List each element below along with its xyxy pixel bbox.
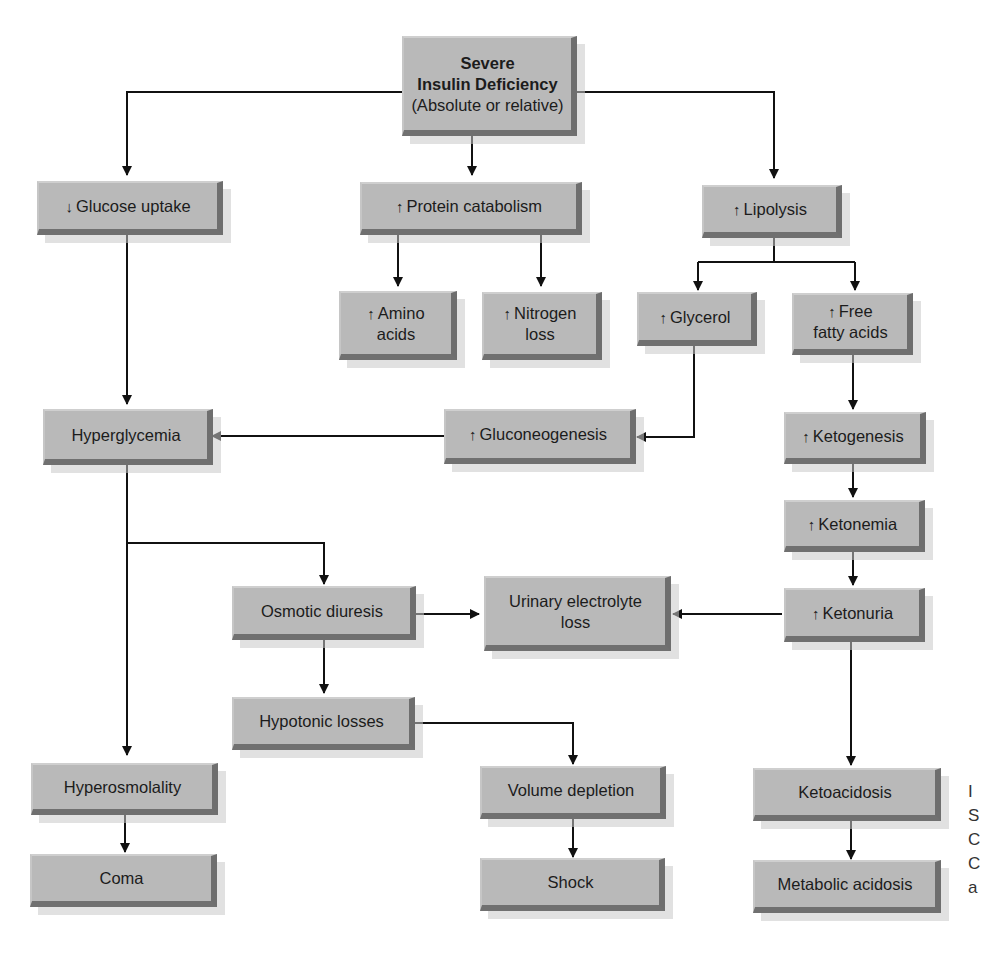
node-label: Protein catabolism (406, 197, 542, 215)
node-shock: Shock (480, 858, 665, 911)
root-title-line2: Insulin Deficiency (417, 74, 557, 95)
root-title-line1: Severe (460, 53, 514, 74)
arrow-up-icon: ↑ (808, 516, 816, 533)
caption-char: C (968, 828, 982, 852)
node-urinary-electrolyte-loss: Urinary electrolyte loss (484, 576, 671, 651)
node-ketogenesis: ↑Ketogenesis (784, 412, 926, 464)
node-hyperosmolality: Hyperosmolality (31, 763, 218, 815)
node-ketonemia: ↑Ketonemia (784, 500, 925, 552)
arrow-up-icon: ↑ (733, 201, 741, 218)
node-coma: Coma (30, 854, 217, 907)
node-label: Ketonemia (818, 515, 897, 533)
node-osmotic-diuresis: Osmotic diuresis (232, 586, 416, 640)
node-label: Ketoacidosis (798, 782, 892, 803)
node-label-line1: Amino (378, 304, 425, 322)
node-label: Lipolysis (744, 200, 807, 218)
caption-char: C (968, 852, 982, 876)
node-protein-catabolism: ↑Protein catabolism (360, 182, 582, 235)
arrow-up-icon: ↑ (367, 305, 375, 322)
arrow-down-icon: ↓ (65, 198, 73, 215)
node-label-line2: acids (377, 324, 416, 345)
node-label-line1: Urinary electrolyte (509, 591, 642, 612)
node-glucose-uptake: ↓Glucose uptake (37, 181, 223, 235)
caption-char: I (968, 780, 982, 804)
arrow-up-icon: ↑ (828, 303, 836, 320)
arrow-up-icon: ↑ (659, 309, 667, 326)
arrow-up-icon: ↑ (504, 305, 512, 322)
node-hyperglycemia: Hyperglycemia (43, 409, 213, 465)
node-gluconeogenesis: ↑Gluconeogenesis (444, 409, 636, 464)
node-free-fatty-acids: ↑Free fatty acids (792, 293, 913, 355)
node-label: Metabolic acidosis (778, 874, 913, 895)
node-label: Gluconeogenesis (479, 425, 607, 443)
node-label: Hyperosmolality (64, 777, 181, 798)
node-label: Hypotonic losses (259, 711, 384, 732)
node-lipolysis: ↑Lipolysis (702, 185, 842, 238)
flowchart-canvas: Severe Insulin Deficiency (Absolute or r… (0, 0, 982, 956)
caption-fragment: I S C C a (968, 780, 982, 900)
node-label: Hyperglycemia (71, 425, 180, 446)
arrow-up-icon: ↑ (802, 428, 810, 445)
caption-char: a (968, 876, 982, 900)
node-label-line1: Free (839, 302, 873, 320)
node-metabolic-acidosis: Metabolic acidosis (753, 860, 941, 913)
node-label: Coma (99, 868, 143, 889)
arrow-up-icon: ↑ (469, 426, 477, 443)
node-label: Glycerol (670, 308, 731, 326)
node-volume-depletion: Volume depletion (480, 766, 666, 819)
node-glycerol: ↑Glycerol (637, 292, 757, 346)
node-severe-insulin-deficiency: Severe Insulin Deficiency (Absolute or r… (402, 36, 577, 136)
node-hypotonic-losses: Hypotonic losses (232, 697, 415, 750)
caption-char: S (968, 804, 982, 828)
node-label: Ketogenesis (813, 427, 904, 445)
node-ketoacidosis: Ketoacidosis (753, 768, 941, 821)
root-subtitle: (Absolute or relative) (411, 95, 563, 116)
node-label-line2: fatty acids (813, 322, 887, 343)
node-nitrogen-loss: ↑Nitrogen loss (482, 292, 602, 360)
node-label: Ketonuria (822, 604, 893, 622)
node-label: Shock (548, 872, 594, 893)
node-label: Osmotic diuresis (261, 601, 383, 622)
node-label: Glucose uptake (76, 197, 191, 215)
node-label: Volume depletion (508, 780, 635, 801)
node-amino-acids: ↑Amino acids (339, 291, 457, 360)
node-label-line2: loss (525, 324, 554, 345)
arrow-up-icon: ↑ (396, 198, 404, 215)
node-label-line2: loss (561, 612, 590, 633)
arrow-up-icon: ↑ (812, 605, 820, 622)
node-label-line1: Nitrogen (514, 304, 576, 322)
node-ketonuria: ↑Ketonuria (784, 588, 925, 642)
